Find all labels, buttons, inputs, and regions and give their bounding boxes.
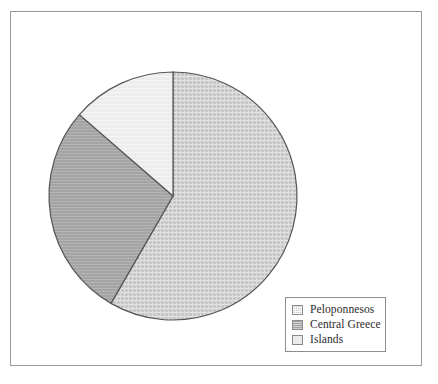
legend-item-peloponnesos[interactable]: Peloponnesos [292,302,380,317]
legend-label-peloponnesos: Peloponnesos [310,302,374,317]
legend-label-islands: Islands [310,332,343,347]
legend-swatch-islands [292,335,303,345]
pie-slice-group [49,72,297,320]
legend-label-central-greece: Central Greece [310,317,381,332]
legend-swatch-peloponnesos [292,305,303,315]
legend-swatch-central-greece [292,320,303,330]
legend-item-islands[interactable]: Islands [292,332,380,347]
pie-chart-figure: Peloponnesos Central Greece Islands [0,0,438,384]
legend-item-central-greece[interactable]: Central Greece [292,317,380,332]
chart-legend: Peloponnesos Central Greece Islands [285,297,386,352]
